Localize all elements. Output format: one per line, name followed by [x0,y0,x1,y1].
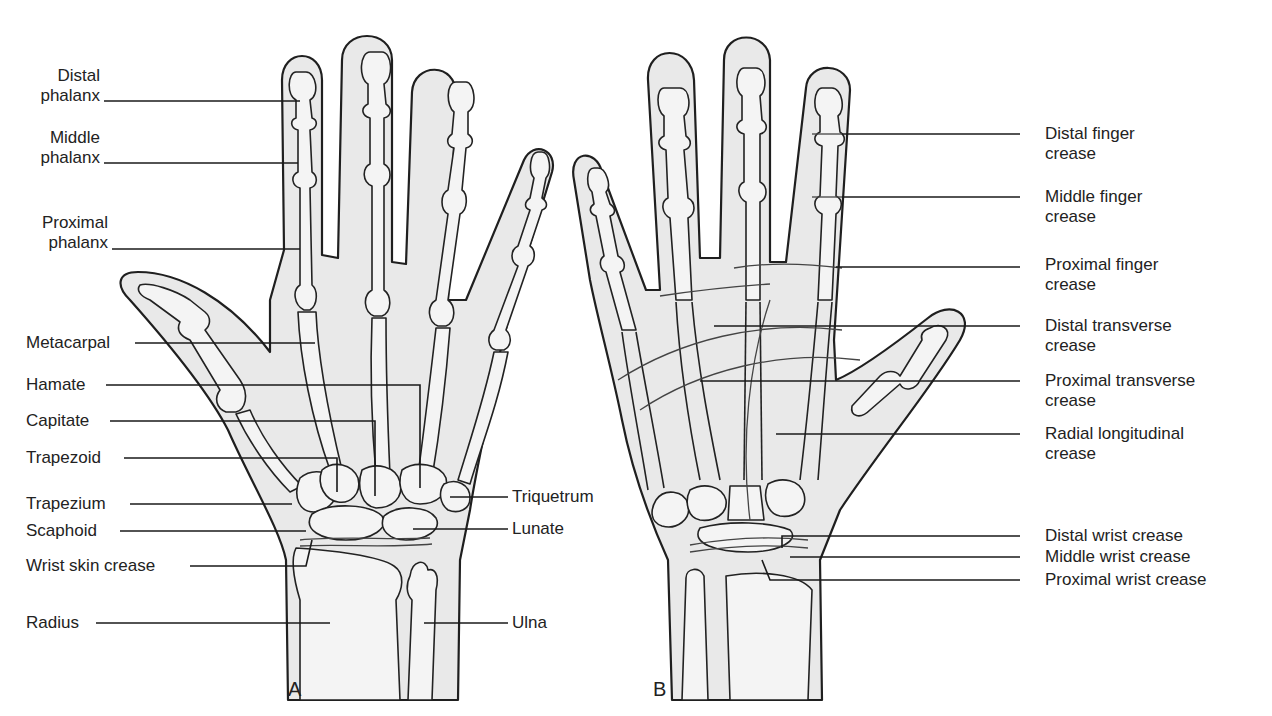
label-distal-transverse-crease: Distal transverse crease [1045,316,1172,356]
label-line: crease [1045,336,1172,356]
label-proximal-transverse-crease: Proximal transverse crease [1045,371,1195,411]
label-trapezoid: Trapezoid [26,448,101,468]
label-line: Middle finger [1045,187,1142,207]
label-line: Middle [30,128,100,148]
label-line: crease [1045,144,1135,164]
label-middle-wrist-crease: Middle wrist crease [1045,547,1191,567]
hand-b-drawing [573,38,965,701]
label-line: phalanx [30,86,100,106]
label-scaphoid: Scaphoid [26,521,97,541]
label-middle-finger-crease: Middle finger crease [1045,187,1142,227]
label-distal-phalanx: Distal phalanx [30,66,100,106]
label-capitate: Capitate [26,411,89,431]
label-line: Proximal [26,213,108,233]
label-triquetrum: Triquetrum [512,487,594,507]
label-proximal-phalanx: Proximal phalanx [26,213,108,253]
label-ulna: Ulna [512,613,547,633]
panel-letter-a: A [288,678,301,701]
label-line: phalanx [30,148,100,168]
hand-a-drawing [121,36,553,700]
forearm-bones-b [682,569,812,700]
label-radius: Radius [26,613,79,633]
label-line: crease [1045,207,1142,227]
label-wrist-skin-crease: Wrist skin crease [26,556,155,576]
label-line: crease [1045,275,1158,295]
label-radial-longitudinal-crease: Radial longitudinal crease [1045,424,1184,464]
label-line: phalanx [26,233,108,253]
label-metacarpal: Metacarpal [26,333,110,353]
label-line: Proximal transverse [1045,371,1195,391]
label-trapezium: Trapezium [26,494,106,514]
label-line: crease [1045,444,1184,464]
label-middle-phalanx: Middle phalanx [30,128,100,168]
label-line: crease [1045,391,1195,411]
forearm-bones-a [293,548,437,700]
hand-anatomy-figure: Distal phalanx Middle phalanx Proximal p… [0,0,1272,716]
label-line: Proximal finger [1045,255,1158,275]
label-distal-wrist-crease: Distal wrist crease [1045,526,1183,546]
label-lunate: Lunate [512,519,564,539]
label-line: Radial longitudinal [1045,424,1184,444]
label-line: Distal transverse [1045,316,1172,336]
label-proximal-finger-crease: Proximal finger crease [1045,255,1158,295]
label-proximal-wrist-crease: Proximal wrist crease [1045,570,1207,590]
label-line: Distal finger [1045,124,1135,144]
label-distal-finger-crease: Distal finger crease [1045,124,1135,164]
label-line: Distal [30,66,100,86]
label-hamate: Hamate [26,375,86,395]
hand-illustrations [0,0,1272,716]
panel-letter-b: B [653,678,666,701]
